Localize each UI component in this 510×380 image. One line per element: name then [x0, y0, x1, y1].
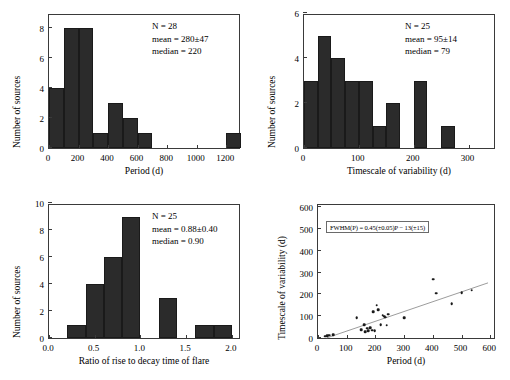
axis-tick — [317, 272, 321, 273]
bars-period — [49, 15, 239, 148]
x-tick-label: 200 — [71, 153, 85, 163]
axis-tick — [95, 335, 96, 339]
y-axis-title-scatter: Timescale of variability (d) — [277, 236, 287, 340]
x-tick-label: 0.5 — [88, 343, 99, 353]
axis-tick — [433, 335, 434, 339]
axis-tick — [167, 145, 168, 149]
axis-tick — [48, 229, 52, 230]
y-tick-label: 2 — [281, 99, 299, 109]
axis-tick — [140, 335, 141, 339]
y-tick-label: 2 — [26, 114, 44, 124]
panel-period-histogram: 020040060080010001200 02468 Period (d) N… — [0, 0, 255, 190]
plot-area-scatter: FWHM(P) = 0.45(±0.05)P − 13(±15) — [317, 204, 495, 339]
stat-n-timescale: N = 25 — [405, 20, 457, 33]
stats-block-ratio: N = 25 mean = 0.88±0.40 median = 0.90 — [152, 210, 218, 248]
stat-median-period: median = 220 — [152, 45, 209, 58]
axis-tick — [48, 147, 52, 148]
axis-tick — [108, 145, 109, 149]
x-tick-label: 0 — [46, 153, 51, 163]
axis-tick — [414, 145, 415, 149]
x-tick-label: 100 — [339, 343, 353, 353]
x-tick-label: 200 — [406, 153, 420, 163]
x-tick-label: 0 — [301, 153, 306, 163]
axis-tick — [138, 145, 139, 149]
scatter-point — [372, 311, 375, 314]
scatter-point — [379, 324, 382, 327]
y-tick-label: 6 — [26, 253, 44, 263]
x-tick-label: 200 — [368, 343, 382, 353]
axis-tick — [317, 228, 321, 229]
y-tick-label: 0 — [26, 144, 44, 154]
axis-tick — [48, 117, 52, 118]
axis-tick — [226, 145, 227, 149]
axis-tick — [48, 256, 52, 257]
axis-tick — [490, 335, 491, 339]
axis-tick — [48, 202, 52, 203]
x-tick-label: 1200 — [216, 153, 234, 163]
histogram-bar — [86, 284, 104, 338]
histogram-bar — [318, 36, 332, 149]
histogram-bar — [441, 126, 455, 149]
histogram-bar — [67, 325, 85, 339]
axis-tick — [48, 57, 52, 58]
scatter-point — [355, 317, 358, 320]
stats-block-timescale: N = 25 mean = 95±14 median = 79 — [405, 20, 457, 58]
axis-tick — [317, 250, 321, 251]
y-tick-label: 600 — [291, 203, 313, 213]
histogram-bar — [104, 257, 122, 338]
x-tick-label: 500 — [454, 343, 468, 353]
histogram-bar — [123, 118, 138, 148]
y-tick-label: 400 — [291, 247, 313, 257]
x-tick-label: 400 — [425, 343, 439, 353]
scatter-point — [386, 324, 389, 327]
x-tick-label: 0.0 — [42, 343, 53, 353]
x-axis-title-ratio: Ratio of rise to decay time of flare — [48, 356, 240, 366]
x-tick-label: 600 — [483, 343, 497, 353]
y-tick-label: 8 — [26, 24, 44, 34]
y-tick-label: 300 — [291, 269, 313, 279]
y-tick-label: 10 — [26, 199, 44, 209]
axis-tick — [197, 145, 198, 149]
stat-median-timescale: median = 79 — [405, 45, 457, 58]
stat-mean-period: mean = 280±47 — [152, 33, 209, 46]
histogram-bar — [386, 103, 400, 148]
axis-tick — [79, 145, 80, 149]
axis-tick — [404, 335, 405, 339]
scatter-point — [360, 328, 363, 331]
scatter-point — [435, 292, 438, 295]
axis-tick — [232, 335, 233, 339]
x-tick-label: 0 — [315, 343, 320, 353]
y-tick-label: 100 — [291, 312, 313, 322]
fit-equation-annotation: FWHM(P) = 0.45(±0.05)P − 13(±15) — [326, 221, 429, 233]
scatter-point — [470, 289, 473, 292]
axis-tick — [48, 337, 52, 338]
x-tick-label: 1.5 — [180, 343, 191, 353]
scatter-point — [384, 316, 387, 319]
scatter-point — [328, 334, 331, 337]
figure-four-panel: 020040060080010001200 02468 Period (d) N… — [0, 0, 510, 380]
x-tick-label: 300 — [396, 343, 410, 353]
scatter-point — [332, 333, 335, 336]
y-tick-label: 0 — [291, 334, 313, 344]
axis-tick — [303, 12, 307, 13]
plot-area-timescale — [303, 14, 495, 149]
scatter-point — [460, 291, 463, 294]
x-axis-title-period: Period (d) — [48, 166, 240, 176]
y-tick-label: 4 — [281, 54, 299, 64]
axis-tick — [462, 335, 463, 339]
histogram-bar — [304, 81, 318, 149]
y-axis-title-timescale: Number of sources — [267, 76, 277, 148]
x-tick-label: 600 — [130, 153, 144, 163]
histogram-bar — [49, 88, 64, 148]
histogram-bar — [122, 217, 140, 339]
axis-tick — [303, 57, 307, 58]
x-tick-label: 300 — [461, 153, 475, 163]
axis-tick — [347, 335, 348, 339]
y-tick-label: 8 — [26, 226, 44, 236]
scatter-point — [376, 304, 379, 307]
histogram-bar — [359, 81, 373, 149]
histogram-bar — [159, 298, 177, 339]
y-tick-label: 6 — [281, 9, 299, 19]
stat-median-ratio: median = 0.90 — [152, 235, 218, 248]
y-tick-label: 4 — [26, 84, 44, 94]
